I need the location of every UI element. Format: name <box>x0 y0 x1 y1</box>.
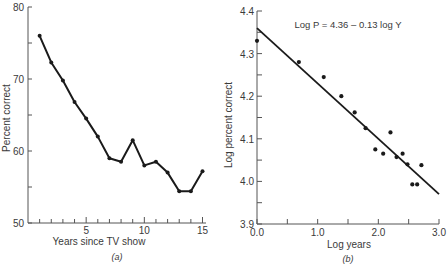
data-point <box>339 94 343 98</box>
y-tick-label: 4.3 <box>240 49 254 60</box>
data-point <box>131 138 135 142</box>
data-point <box>119 160 123 164</box>
panel-b-axes <box>257 11 439 224</box>
data-point <box>373 147 377 151</box>
panel-b-y-axis-label: Log percent correct <box>223 82 234 168</box>
data-point <box>49 60 53 64</box>
data-point <box>410 182 414 186</box>
data-point <box>96 135 100 139</box>
y-tick-label: 4.1 <box>240 134 254 145</box>
chart-figure: 5101550607080 Years since TV show Percen… <box>0 0 447 267</box>
data-point <box>61 78 65 82</box>
data-point <box>322 75 326 79</box>
data-point <box>419 163 423 167</box>
x-tick-label: 10 <box>139 225 151 236</box>
panel-a-line-chart: 5101550607080 Years since TV show Percen… <box>1 2 208 262</box>
data-point <box>73 100 77 104</box>
panel-a-x-axis-label: Years since TV show <box>53 236 147 247</box>
data-point <box>394 155 398 159</box>
panel-a-y-axis-label: Percent correct <box>1 84 12 152</box>
data-point <box>363 126 367 130</box>
x-tick-label: 1.0 <box>311 227 325 238</box>
data-point <box>38 34 42 38</box>
data-point <box>381 152 385 156</box>
data-point <box>415 182 419 186</box>
data-point <box>107 156 111 160</box>
data-point <box>401 152 405 156</box>
panel-b-regression-line <box>257 28 439 194</box>
panel-b-data-points <box>255 39 424 187</box>
data-point <box>177 189 181 193</box>
y-tick-label: 3.9 <box>240 219 254 230</box>
data-point <box>388 130 392 134</box>
panel-a-caption: (a) <box>112 252 123 262</box>
y-tick-label: 4.0 <box>240 176 254 187</box>
y-tick-label: 50 <box>13 218 25 229</box>
panel-a-data-points <box>38 34 205 194</box>
x-tick-label: 5 <box>83 225 89 236</box>
data-point <box>353 110 357 114</box>
panel-a-series-line <box>40 36 203 192</box>
y-tick-label: 80 <box>13 2 25 13</box>
y-tick-label: 60 <box>13 146 25 157</box>
data-point <box>189 189 193 193</box>
y-tick-label: 4.2 <box>240 91 254 102</box>
data-point <box>84 117 88 121</box>
panel-b-caption: (b) <box>343 254 354 264</box>
x-tick-label: 3.0 <box>432 227 446 238</box>
x-tick-label: 2.0 <box>371 227 385 238</box>
panel-a-ticks <box>28 7 203 223</box>
panel-a-tick-labels: 5101550607080 <box>13 2 209 236</box>
data-point <box>405 162 409 166</box>
panel-b-equation-annotation: Log P = 4.36 – 0.13 log Y <box>294 19 402 30</box>
panel-b-x-axis-label: Log years <box>327 239 371 250</box>
data-point <box>255 39 259 43</box>
x-tick-label: 15 <box>197 225 209 236</box>
data-point <box>142 163 146 167</box>
data-point <box>154 160 158 164</box>
y-tick-label: 4.4 <box>240 6 254 17</box>
data-point <box>166 171 170 175</box>
y-tick-label: 70 <box>13 74 25 85</box>
panel-b-scatter-chart: 0.01.02.03.03.94.04.14.24.34.4 Log P = 4… <box>223 6 446 264</box>
panel-b-axis-lines <box>257 11 439 224</box>
data-point <box>201 169 205 173</box>
data-point <box>297 60 301 64</box>
panel-b-ticks <box>257 11 439 224</box>
